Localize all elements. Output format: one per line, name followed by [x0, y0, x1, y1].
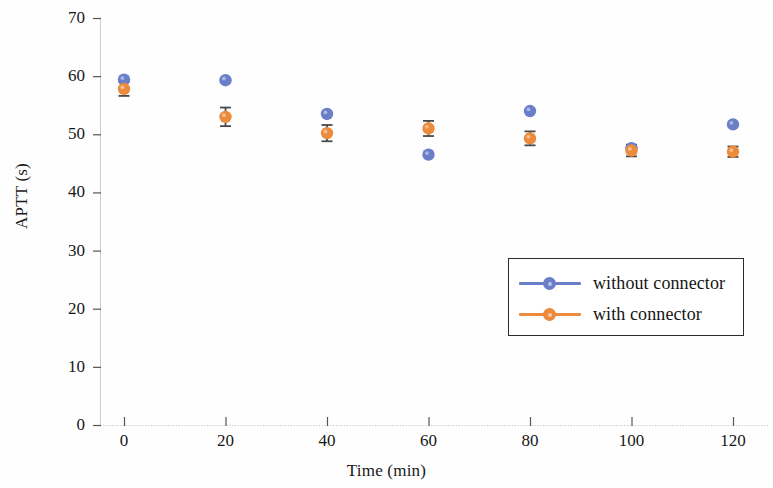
x-tick-label: 20	[196, 432, 256, 449]
data-point	[219, 111, 231, 123]
plot-area	[0, 0, 773, 488]
x-tick-label: 120	[703, 432, 763, 449]
x-tick-label: 60	[399, 432, 459, 449]
legend: without connector with connector	[508, 258, 744, 336]
y-tick-label: 40	[41, 183, 85, 200]
data-point	[524, 132, 536, 144]
x-axis-ticks	[125, 417, 734, 426]
x-tick-label: 80	[500, 432, 560, 449]
legend-label: with connector	[593, 304, 702, 325]
data-point-highlight	[730, 121, 734, 125]
legend-label: without connector	[593, 273, 725, 294]
legend-dot-icon	[543, 308, 556, 321]
legend-marker-icon	[519, 276, 581, 290]
data-points	[118, 73, 739, 160]
legend-item-with-connector[interactable]: with connector	[519, 299, 702, 329]
data-point	[118, 83, 130, 95]
data-point	[321, 127, 333, 139]
y-tick-label: 10	[41, 358, 85, 375]
y-tick-label: 70	[41, 9, 85, 26]
x-tick-label: 0	[94, 432, 154, 449]
error-bars	[119, 82, 739, 157]
y-axis-ticks	[93, 19, 101, 426]
legend-marker-icon	[519, 307, 581, 321]
data-point-highlight	[628, 147, 632, 151]
legend-item-without-connector[interactable]: without connector	[519, 268, 725, 298]
y-tick-label: 50	[41, 125, 85, 142]
chart-container: APTT (s) Time (min) 010203040506070 0204…	[0, 0, 773, 488]
data-point	[422, 148, 434, 160]
data-point	[422, 122, 434, 134]
data-point	[625, 144, 637, 156]
legend-dot-icon	[543, 277, 556, 290]
data-point-highlight	[425, 151, 429, 155]
data-point-highlight	[121, 76, 125, 80]
data-point-highlight	[121, 85, 125, 89]
data-point-highlight	[527, 108, 531, 112]
data-point	[321, 108, 333, 120]
data-point-highlight	[222, 113, 226, 117]
data-point	[727, 118, 739, 130]
y-tick-label: 30	[41, 242, 85, 259]
y-tick-label: 20	[41, 300, 85, 317]
x-tick-label: 100	[602, 432, 662, 449]
data-point-highlight	[730, 148, 734, 152]
data-point-highlight	[527, 135, 531, 139]
data-point-highlight	[324, 130, 328, 134]
data-point-highlight	[324, 110, 328, 114]
data-point-highlight	[222, 77, 226, 81]
y-tick-label: 60	[41, 67, 85, 84]
x-tick-label: 40	[297, 432, 357, 449]
data-point	[727, 146, 739, 158]
axis-lines	[101, 18, 769, 426]
y-tick-label: 0	[41, 416, 85, 433]
data-point	[524, 105, 536, 117]
data-point-highlight	[425, 125, 429, 129]
data-point	[219, 74, 231, 86]
